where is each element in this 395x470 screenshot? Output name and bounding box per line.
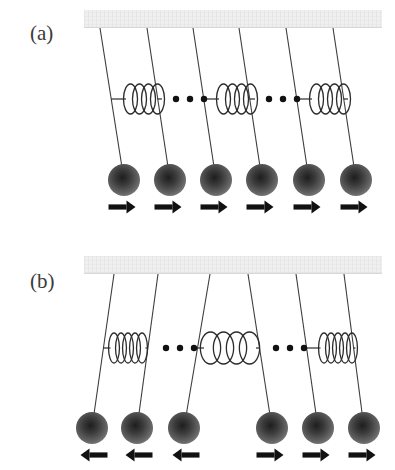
ceiling-edge-line <box>84 273 382 274</box>
pendulum-bob <box>256 412 288 444</box>
ellipsis-dot <box>187 96 193 102</box>
ellipsis-dot <box>191 345 197 351</box>
ellipsis-dot <box>266 96 272 102</box>
ceiling-support-bar <box>84 256 382 274</box>
ellipsis-dots <box>273 345 307 351</box>
ellipsis-dot <box>301 345 307 351</box>
pendulum-bob <box>302 412 334 444</box>
pendulum-bob <box>154 164 186 196</box>
panel-a-label: (a) <box>30 21 53 45</box>
ellipsis-dot <box>294 96 300 102</box>
ellipsis-dots <box>173 96 207 102</box>
pendulum-bob <box>340 164 372 196</box>
pendulum-bob <box>76 412 108 444</box>
ellipsis-dot <box>201 96 207 102</box>
pendulum-bob <box>246 164 278 196</box>
pendulum-bob <box>168 412 200 444</box>
ceiling-support-bar <box>84 10 382 28</box>
pendulum-bob <box>293 164 325 196</box>
ellipsis-dot <box>287 345 293 351</box>
ellipsis-dot <box>177 345 183 351</box>
ellipsis-dots <box>266 96 300 102</box>
figure-root: (a) (b) <box>0 0 395 470</box>
pendulum-bob <box>121 412 153 444</box>
ellipsis-dot <box>163 345 169 351</box>
pendulum-bob <box>108 164 140 196</box>
ceiling-edge-line <box>84 27 382 28</box>
coupled-pendulum-figure: (a) (b) <box>0 0 395 470</box>
ellipsis-dot <box>280 96 286 102</box>
panel-b-label: (b) <box>30 269 55 293</box>
figure-background <box>0 0 395 470</box>
ellipsis-dots <box>163 345 197 351</box>
ellipsis-dot <box>173 96 179 102</box>
ellipsis-dot <box>273 345 279 351</box>
pendulum-bob <box>200 164 232 196</box>
pendulum-bob <box>348 412 380 444</box>
